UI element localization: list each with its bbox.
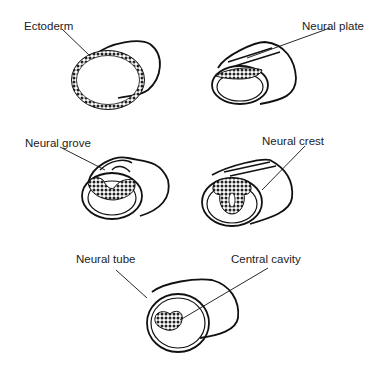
neural-tube-leader-line — [116, 270, 147, 298]
neurulation-diagram — [0, 0, 390, 367]
neural-crest-tube — [202, 160, 292, 226]
label-neural-plate: Neural plate — [302, 21, 364, 33]
neural-plate-tube — [212, 42, 296, 104]
neural-tube — [147, 280, 238, 353]
neural-groove-leader-line — [60, 147, 105, 170]
label-neural-crest: Neural crest — [262, 136, 324, 148]
ectoderm-ring — [74, 53, 142, 107]
label-ectoderm: Ectoderm — [24, 21, 73, 33]
label-neural-groove: Neural grove — [25, 138, 91, 150]
label-central-cavity: Central cavity — [231, 254, 301, 266]
central-cavity-leader-line — [180, 268, 268, 320]
neural-groove-tube — [82, 157, 169, 219]
label-neural-tube: Neural tube — [76, 254, 135, 266]
ectoderm-leader-line — [62, 29, 90, 56]
central-cavity-cells — [155, 311, 182, 330]
